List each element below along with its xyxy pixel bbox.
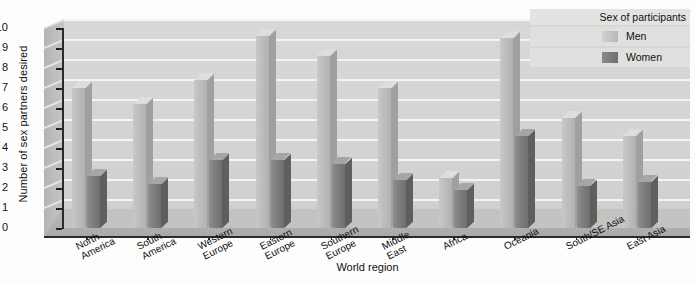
legend-title: Sex of participants bbox=[530, 9, 690, 25]
bar-face bbox=[638, 182, 651, 228]
bar-side-face bbox=[528, 129, 535, 227]
bar-face bbox=[393, 180, 406, 228]
bar-face bbox=[562, 118, 575, 228]
bar-face bbox=[439, 178, 452, 228]
legend: Sex of participants Men Women bbox=[530, 9, 690, 67]
bar-face bbox=[515, 136, 528, 228]
bar-men-southern-europe bbox=[317, 56, 330, 228]
legend-item-men: Men bbox=[530, 27, 690, 46]
bar-side-face bbox=[406, 173, 413, 227]
bar-women-south-america bbox=[148, 184, 161, 228]
bar-side-face bbox=[161, 177, 168, 227]
bar-women-middle-east bbox=[393, 180, 406, 228]
bar-men-east-asia bbox=[623, 136, 636, 228]
bar-face bbox=[577, 186, 590, 228]
bar-women-north-america bbox=[87, 176, 100, 228]
bar-face bbox=[194, 80, 207, 228]
bar-face bbox=[378, 88, 391, 228]
bar-face bbox=[454, 190, 467, 228]
bar-women-southern-europe bbox=[332, 164, 345, 228]
bar-women-eastern-europe bbox=[271, 160, 284, 228]
bar-men-western-europe bbox=[194, 80, 207, 228]
x-axis-title: World region bbox=[0, 261, 695, 273]
legend-swatch-men bbox=[602, 31, 618, 42]
bar-face bbox=[209, 160, 222, 228]
bar-face bbox=[500, 38, 513, 228]
bar-face bbox=[256, 36, 269, 228]
bar-men-south-se-asia bbox=[562, 118, 575, 228]
bar-men-eastern-europe bbox=[256, 36, 269, 228]
bar-men-middle-east bbox=[378, 88, 391, 228]
bar-side-face bbox=[651, 175, 658, 227]
bar-face bbox=[87, 176, 100, 228]
bar-side-face bbox=[100, 169, 107, 227]
bar-men-north-america bbox=[72, 88, 85, 228]
bar-women-oceania bbox=[515, 136, 528, 228]
bar-face bbox=[133, 104, 146, 228]
legend-item-women: Women bbox=[530, 48, 690, 67]
bar-women-east-asia bbox=[638, 182, 651, 228]
bar-men-oceania bbox=[500, 38, 513, 228]
x-axis-title-text: World region bbox=[336, 261, 398, 273]
bar-face bbox=[148, 184, 161, 228]
bar-face bbox=[332, 164, 345, 228]
bar-men-south-america bbox=[133, 104, 146, 228]
x-axis-category-labels: NorthAmericaSouthAmericaWesternEuropeEas… bbox=[0, 236, 695, 284]
legend-label-men: Men bbox=[626, 30, 646, 43]
bar-side-face bbox=[222, 153, 229, 227]
bar-women-south-se-asia bbox=[577, 186, 590, 228]
bar-side-face bbox=[345, 157, 352, 227]
bar-side-face bbox=[590, 179, 597, 227]
bar-face bbox=[317, 56, 330, 228]
legend-label-women: Women bbox=[626, 51, 662, 64]
bar-women-western-europe bbox=[209, 160, 222, 228]
bar-men-africa bbox=[439, 178, 452, 228]
bar-side-face bbox=[284, 153, 291, 227]
bar-face bbox=[271, 160, 284, 228]
chart-figure: 012345678910 Number of sex partners desi… bbox=[0, 0, 695, 284]
plot-area: 012345678910 Number of sex partners desi… bbox=[0, 0, 695, 284]
bar-face bbox=[72, 88, 85, 228]
bar-side-face bbox=[467, 183, 474, 227]
bar-women-africa bbox=[454, 190, 467, 228]
legend-swatch-women bbox=[602, 52, 618, 63]
bar-face bbox=[623, 136, 636, 228]
